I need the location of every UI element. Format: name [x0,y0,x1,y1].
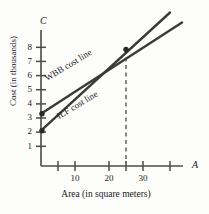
y-axis-symbol: C [40,16,47,26]
x-axis-title: Area (in square meters) [36,189,176,199]
x-tick-label-10: 10 [65,174,85,183]
y-tick-label-3: 3 [20,113,32,122]
y-tick-label-4: 4 [20,99,32,108]
cost-comparison-chart: C A 8 7 6 5 4 3 2 1 10 20 30 Cost (in th… [0,0,209,214]
x-tick-label-30: 30 [133,174,153,183]
wbb-intercept-marker [39,111,44,116]
x-tick-label-20: 20 [99,174,119,183]
y-tick-label-6: 6 [20,71,32,80]
y-tick-label-2: 2 [20,127,32,136]
y-tick-label-5: 5 [20,85,32,94]
y-tick-label-1: 1 [20,142,32,151]
y-tick-label-8: 8 [20,43,32,52]
ilf-intercept-marker [39,128,44,133]
x-axis-symbol: A [192,160,198,170]
intersection-point-marker [123,47,128,52]
y-tick-label-7: 7 [20,57,32,66]
y-axis-title: Cost (in thousands) [8,27,18,115]
